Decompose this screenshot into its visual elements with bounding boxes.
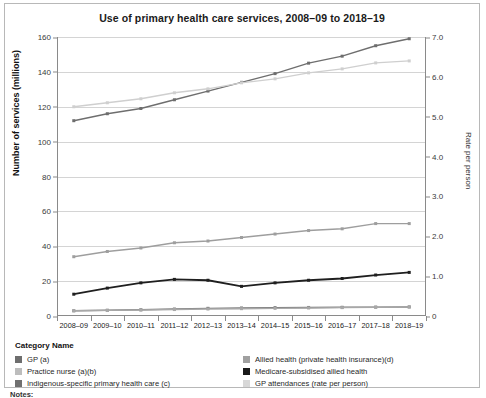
- legend-label: Indigenous-specific primary health care …: [27, 379, 170, 388]
- series-marker: [139, 246, 142, 249]
- series-marker: [374, 222, 377, 225]
- series-marker: [206, 279, 209, 282]
- series-marker: [307, 62, 310, 65]
- y-axis-left-tick-label: 20: [42, 277, 57, 286]
- x-axis-tick-mark: [191, 316, 192, 321]
- x-axis-tick-label: 2014–15: [261, 321, 289, 330]
- series-marker: [139, 309, 142, 312]
- series-marker: [206, 87, 209, 90]
- series-marker: [173, 308, 176, 311]
- x-axis-tick-mark: [426, 316, 427, 321]
- legend-label: Practice nurse (a)(b): [27, 367, 96, 376]
- series-marker: [274, 281, 277, 284]
- legend-swatch: [15, 380, 22, 387]
- legend-swatch: [15, 368, 22, 375]
- series-marker: [408, 222, 411, 225]
- legend-label: Medicare-subsidised allied health: [255, 367, 367, 376]
- x-axis-tick-mark: [91, 316, 92, 321]
- legend-label: GP attendances (rate per person): [255, 379, 368, 388]
- legend-label: Allied health (private health insurance)…: [255, 355, 393, 364]
- series-marker: [206, 308, 209, 311]
- series-marker: [72, 255, 75, 258]
- series-marker: [106, 101, 109, 104]
- y-axis-right-tick-label: 3.0: [426, 192, 443, 201]
- series-marker: [173, 91, 176, 94]
- series-marker: [72, 105, 75, 108]
- series-marker: [173, 241, 176, 244]
- series-marker: [374, 44, 377, 47]
- y-axis-left-label: Number of services (millions): [11, 50, 21, 176]
- legend-item[interactable]: Practice nurse (a)(b): [15, 365, 243, 377]
- y-axis-left-line: [57, 37, 58, 316]
- series-marker: [307, 279, 310, 282]
- plot-area: 020406080100120140160 01.02.03.04.05.06.…: [57, 37, 426, 316]
- y-axis-right-line: [425, 37, 426, 316]
- series-marker: [139, 97, 142, 100]
- x-axis-tick-mark: [57, 316, 58, 321]
- y-axis-left-tick-label: 60: [42, 207, 57, 216]
- legend-item[interactable]: Allied health (private health insurance)…: [243, 353, 471, 365]
- x-axis-tick-mark: [124, 316, 125, 321]
- series-marker: [72, 119, 75, 122]
- legend-item[interactable]: GP attendances (rate per person): [243, 377, 471, 389]
- series-marker: [106, 309, 109, 312]
- series-marker: [307, 71, 310, 74]
- series-lines: [57, 37, 426, 316]
- y-axis-right-tick-label: 6.0: [426, 72, 443, 81]
- series-marker: [240, 81, 243, 84]
- y-axis-right-tick-label: 1.0: [426, 272, 443, 281]
- y-axis-right-tick-label: 0: [426, 312, 436, 321]
- y-axis-right-tick-label: 5.0: [426, 112, 443, 121]
- legend-swatch: [15, 356, 22, 363]
- series-marker: [72, 293, 75, 296]
- series-marker: [139, 107, 142, 110]
- x-axis-tick-mark: [392, 316, 393, 321]
- series-marker: [173, 278, 176, 281]
- y-axis-left-tick-label: 0: [47, 312, 57, 321]
- series-marker: [408, 305, 411, 308]
- x-axis-tick-mark: [258, 316, 259, 321]
- x-axis-tick-label: 2013–14: [227, 321, 255, 330]
- series-line: [74, 39, 409, 121]
- chart-legend: Category Name GP (a)Practice nurse (a)(b…: [15, 341, 471, 385]
- y-axis-left-tick-label: 120: [38, 102, 57, 111]
- legend-title: Category Name: [15, 341, 471, 350]
- x-axis-tick-label: 2012–13: [194, 321, 222, 330]
- series-marker: [307, 306, 310, 309]
- y-axis-right-tick-label: 7.0: [426, 33, 443, 42]
- legend-item[interactable]: Medicare-subsidised allied health: [243, 365, 471, 377]
- series-marker: [374, 274, 377, 277]
- legend-swatch: [243, 380, 250, 387]
- series-marker: [139, 281, 142, 284]
- series-marker: [106, 250, 109, 253]
- series-marker: [274, 307, 277, 310]
- series-marker: [341, 277, 344, 280]
- x-axis-tick-label: 2018–19: [395, 321, 423, 330]
- series-marker: [106, 112, 109, 115]
- legend-item[interactable]: GP (a): [15, 353, 243, 365]
- x-axis-line: [57, 315, 426, 316]
- series-marker: [240, 285, 243, 288]
- y-axis-left-tick-label: 80: [42, 172, 57, 181]
- y-axis-left-tick-label: 140: [38, 67, 57, 76]
- series-line: [74, 272, 409, 294]
- chart-figure: Use of primary health care services, 200…: [4, 3, 480, 388]
- series-line: [74, 224, 409, 257]
- legend-item[interactable]: Indigenous-specific primary health care …: [15, 377, 243, 389]
- series-marker: [106, 287, 109, 290]
- series-marker: [206, 240, 209, 243]
- series-marker: [374, 306, 377, 309]
- series-marker: [408, 37, 411, 40]
- series-marker: [341, 227, 344, 230]
- x-axis-tick-label: 2015–16: [294, 321, 322, 330]
- x-axis-tick-mark: [225, 316, 226, 321]
- series-marker: [240, 236, 243, 239]
- x-axis-tick-mark: [359, 316, 360, 321]
- y-axis-left-tick-label: 40: [42, 242, 57, 251]
- y-axis-right-tick-label: 2.0: [426, 232, 443, 241]
- series-marker: [240, 307, 243, 310]
- series-marker: [274, 72, 277, 75]
- series-marker: [341, 55, 344, 58]
- x-axis-tick-label: 2016–17: [328, 321, 356, 330]
- y-axis-right-label: Rate per person: [464, 132, 473, 189]
